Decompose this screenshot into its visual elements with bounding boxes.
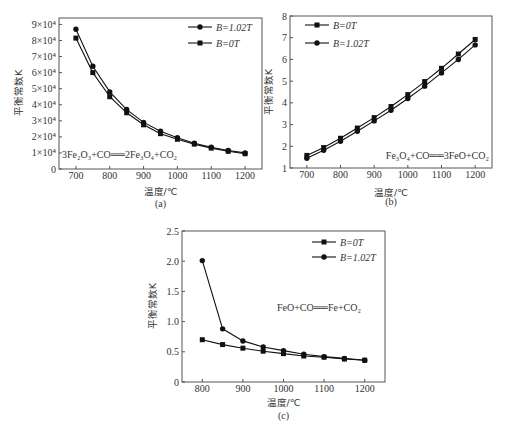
- data-point-square: [240, 346, 245, 351]
- legend-marker-circle: [197, 24, 202, 29]
- x-tick-label: 900: [367, 169, 382, 180]
- y-tick-label: 9×10⁴: [32, 19, 57, 30]
- data-point-circle: [321, 147, 326, 152]
- reaction-annotation: FeO+CO══Fe+CO₂: [277, 302, 361, 313]
- x-tick-label: 1000: [274, 383, 294, 394]
- x-tick-label: 900: [235, 383, 250, 394]
- data-point-circle: [338, 139, 343, 144]
- y-tick-label: 3×10⁴: [32, 115, 57, 126]
- data-point-circle: [472, 42, 477, 47]
- x-tick-label: 1200: [355, 383, 375, 394]
- y-tick-label: 0: [51, 164, 56, 175]
- legend-marker-square: [315, 23, 320, 28]
- x-tick-label: 700: [299, 169, 314, 180]
- legend-entry: B=0T: [188, 38, 241, 49]
- data-point-circle: [240, 338, 245, 343]
- data-point-circle: [220, 326, 225, 331]
- data-point-circle: [371, 118, 376, 123]
- y-axis-label: 平衡常数K: [13, 69, 24, 116]
- y-tick-label: 5×10⁴: [32, 83, 57, 94]
- legend-label: B=0T: [333, 20, 358, 31]
- y-tick-label: 2.5: [167, 226, 180, 237]
- legend-entry: B=1.02T: [188, 22, 253, 33]
- legend-marker-circle: [314, 40, 319, 45]
- data-point-circle: [422, 83, 427, 88]
- series-square: [73, 36, 247, 157]
- x-axis-label: 温度/℃: [144, 186, 178, 197]
- y-tick-label: 1: [282, 163, 287, 174]
- y-tick-label: 1.5: [167, 286, 180, 297]
- data-point-square: [456, 52, 461, 57]
- data-point-square: [473, 37, 478, 42]
- series-line: [76, 38, 245, 154]
- data-point-circle: [304, 156, 309, 161]
- panel-caption: (b): [385, 196, 397, 208]
- y-tick-label: 6: [282, 54, 287, 65]
- data-point-circle: [388, 108, 393, 113]
- data-point-circle: [261, 344, 266, 349]
- chart-c: 80090010001100120000.51.01.52.02.5温度/℃平衡…: [147, 226, 385, 423]
- plot-frame: [290, 16, 492, 168]
- data-point-square: [192, 142, 197, 147]
- x-tick-label: 900: [136, 170, 151, 181]
- series-square: [304, 37, 477, 158]
- data-point-square: [175, 137, 180, 142]
- y-tick-label: 1.0: [167, 316, 180, 327]
- x-tick-label: 1100: [432, 169, 452, 180]
- x-tick-label: 800: [102, 170, 117, 181]
- data-point-circle: [321, 354, 326, 359]
- y-axis-label: 平衡常数K: [147, 282, 158, 329]
- x-tick-label: 800: [195, 383, 210, 394]
- legend-label: B=1.02T: [340, 252, 377, 263]
- x-tick-label: 800: [333, 169, 348, 180]
- reaction-annotation: 3Fe₂O₃+CO══2Fe₃O₄+CO₂: [62, 149, 177, 160]
- data-point-square: [220, 342, 225, 347]
- x-tick-label: 1100: [201, 170, 221, 181]
- legend-entry: B=1.02T: [305, 38, 370, 49]
- y-tick-label: 2.0: [167, 256, 180, 267]
- data-point-square: [141, 122, 146, 127]
- figure: 70080090010001100120001×10⁴2×10⁴3×10⁴4×1…: [0, 0, 508, 437]
- y-tick-label: 0: [174, 377, 179, 388]
- data-point-circle: [362, 358, 367, 363]
- data-point-square: [439, 66, 444, 71]
- y-tick-label: 8: [282, 11, 287, 22]
- data-point-circle: [355, 129, 360, 134]
- legend-marker-square: [322, 240, 327, 245]
- panel-caption: (c): [278, 410, 289, 422]
- legend-label: B=0T: [216, 38, 241, 49]
- x-tick-label: 1200: [465, 169, 485, 180]
- x-tick-label: 1000: [398, 169, 418, 180]
- series-line: [307, 40, 475, 156]
- legend-label: B=1.02T: [216, 22, 253, 33]
- y-tick-label: 2: [282, 141, 287, 152]
- data-point-square: [209, 146, 214, 151]
- data-point-circle: [342, 356, 347, 361]
- y-tick-label: 6×10⁴: [32, 67, 57, 78]
- legend-marker-square: [198, 41, 203, 46]
- reaction-annotation: Fe₃O₄+CO══3FeO+CO₂: [386, 150, 489, 161]
- data-point-square: [158, 131, 163, 136]
- data-point-square: [73, 36, 78, 41]
- y-tick-label: 4×10⁴: [32, 99, 57, 110]
- y-tick-label: 5: [282, 76, 287, 87]
- x-tick-label: 700: [68, 170, 83, 181]
- data-point-circle: [405, 96, 410, 101]
- data-point-square: [243, 151, 248, 156]
- x-axis-label: 温度/℃: [267, 397, 301, 408]
- chart-b: 70080090010001100120012345678温度/℃平衡常数K(b…: [263, 11, 492, 209]
- y-tick-label: 7×10⁴: [32, 51, 57, 62]
- y-tick-label: 4: [282, 97, 287, 108]
- y-tick-label: 8×10⁴: [32, 35, 57, 46]
- y-axis-label: 平衡常数K: [263, 68, 274, 115]
- data-point-square: [422, 79, 427, 84]
- y-tick-label: 0.5: [167, 346, 180, 357]
- legend-entry: B=0T: [305, 20, 358, 31]
- legend-entry: B=1.02T: [312, 252, 377, 263]
- data-point-square: [124, 110, 129, 115]
- data-point-circle: [439, 70, 444, 75]
- panel-caption: (a): [155, 198, 166, 210]
- x-tick-label: 1200: [235, 170, 255, 181]
- data-point-square: [200, 337, 205, 342]
- data-point-square: [90, 70, 95, 75]
